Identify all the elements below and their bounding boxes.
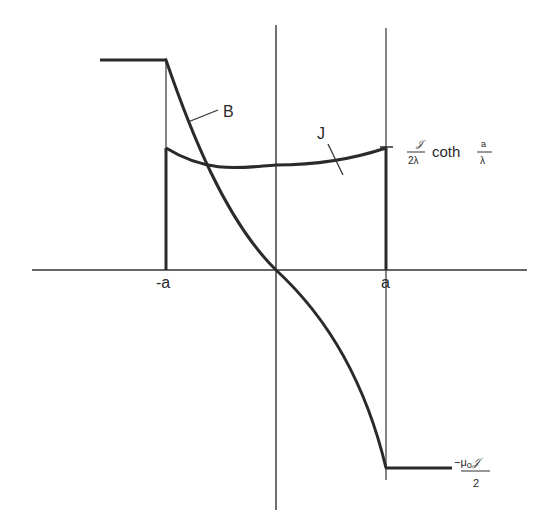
coth-text: coth [432, 143, 460, 160]
jmax-numerator: 𝒥 [415, 138, 427, 150]
field-current-diagram: B J -a a 𝒥 2λ coth a λ −μo𝒥 2 [0, 0, 543, 531]
b-leader [188, 110, 218, 122]
b-label: B [223, 103, 234, 120]
b-min-annotation: −μo𝒥 2 [454, 456, 490, 489]
tick-label-pos-a: a [381, 274, 390, 291]
arg-denominator: λ [480, 155, 485, 166]
arg-numerator: a [481, 139, 486, 149]
j-max-annotation: 𝒥 2λ coth a λ [407, 138, 492, 166]
bmin-denominator: 2 [473, 477, 479, 489]
j-label: J [317, 125, 325, 142]
jmax-denominator: 2λ [408, 155, 419, 166]
bmin-numerator: −μo𝒥 [454, 456, 484, 470]
tick-label-neg-a: -a [156, 274, 170, 291]
